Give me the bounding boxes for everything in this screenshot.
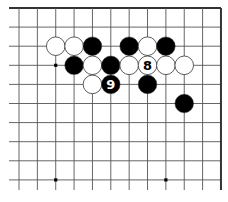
black-stone-circle xyxy=(138,75,157,94)
white-stone xyxy=(120,56,139,75)
move-number-label: 8 xyxy=(143,58,152,73)
white-stone xyxy=(157,56,176,75)
black-stone xyxy=(175,94,194,113)
white-stone xyxy=(83,75,102,94)
star-point xyxy=(54,64,57,67)
black-stone-circle xyxy=(102,56,121,75)
white-stone-circle xyxy=(83,56,102,75)
white-stone xyxy=(175,56,194,75)
black-stone xyxy=(120,37,139,56)
black-stone-circle xyxy=(157,37,176,56)
white-stone xyxy=(83,56,102,75)
white-stone xyxy=(65,37,84,56)
black-stone xyxy=(138,75,157,94)
white-stone-circle xyxy=(157,56,176,75)
white-stone-circle xyxy=(175,56,194,75)
black-stone-circle xyxy=(120,37,139,56)
white-stone-circle xyxy=(120,56,139,75)
black-stone-circle xyxy=(175,94,194,113)
star-point xyxy=(164,178,167,181)
white-stone: 8 xyxy=(138,56,157,75)
black-stone xyxy=(102,56,121,75)
stones: 89 xyxy=(46,37,193,113)
black-stone-circle xyxy=(83,37,102,56)
white-stone xyxy=(46,37,65,56)
white-stone-circle xyxy=(46,37,65,56)
go-board: 89 xyxy=(0,0,228,202)
black-stone xyxy=(83,37,102,56)
black-stone: 9 xyxy=(102,75,121,94)
black-stone xyxy=(65,56,84,75)
black-stone xyxy=(157,37,176,56)
white-stone xyxy=(138,37,157,56)
move-number-label: 9 xyxy=(106,77,115,92)
white-stone-circle xyxy=(138,37,157,56)
black-stone-circle xyxy=(65,56,84,75)
star-point xyxy=(54,178,57,181)
white-stone-circle xyxy=(65,37,84,56)
white-stone-circle xyxy=(83,75,102,94)
